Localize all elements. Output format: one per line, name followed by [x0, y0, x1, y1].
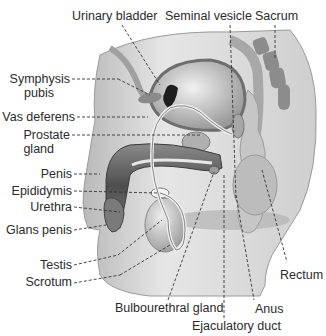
label-rectum: Rectum [280, 268, 323, 282]
label-glans-penis: Glans penis [6, 223, 72, 237]
label-symphysis-pubis-line1: Symphysis [10, 72, 70, 86]
label-prostate-gland-line2: gland [23, 142, 54, 156]
label-ejaculatory-duct: Ejaculatory duct [192, 319, 281, 333]
label-scrotum: Scrotum [25, 275, 72, 289]
label-vas-deferens: Vas deferens [2, 110, 75, 124]
label-symphysis-pubis-line2: pubis [24, 86, 54, 100]
label-urinary-bladder: Urinary bladder [72, 9, 157, 23]
label-sacrum: Sacrum [255, 9, 298, 23]
label-prostate-gland-line1: Prostate [23, 128, 70, 142]
label-seminal-vesicle: Seminal vesicle [165, 9, 252, 23]
label-testis: Testis [40, 258, 72, 272]
label-penis: Penis [41, 167, 72, 181]
label-bulbourethral-gland: Bulbourethral gland [115, 301, 223, 315]
label-epididymis: Epididymis [12, 184, 72, 198]
label-urethra: Urethra [30, 200, 72, 214]
label-anus: Anus [255, 302, 284, 316]
